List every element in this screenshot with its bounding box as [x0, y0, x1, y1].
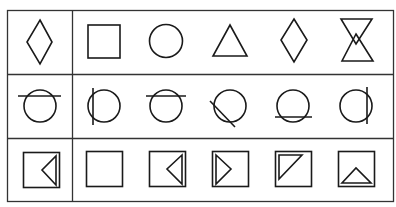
reference-diamond-icon [27, 20, 52, 64]
reference-square-left-triangle-icon [24, 153, 60, 188]
square-left-triangle-icon [150, 152, 186, 187]
grid [8, 11, 394, 202]
row-3 [24, 152, 375, 188]
circle-icon [150, 25, 183, 58]
puzzle-figure [0, 0, 396, 207]
outer-border [8, 11, 394, 202]
circle-bottom-line-icon [275, 90, 312, 122]
square-bottom-triangle-icon [339, 152, 375, 187]
reference-circle-top-line-icon [18, 90, 61, 122]
triangle-icon [213, 25, 247, 56]
circle-right-vertical-line-icon [340, 87, 372, 124]
row-1 [27, 19, 373, 64]
square-corner-triangle-icon [276, 152, 312, 187]
row-2 [18, 87, 372, 127]
circle-top-line-icon [146, 90, 186, 122]
empty-square-icon [87, 152, 123, 187]
diamond-icon [281, 19, 307, 62]
square-right-triangle-icon [213, 152, 249, 187]
circle-left-vertical-line-icon [88, 88, 120, 125]
square-icon [88, 25, 120, 58]
hourglass-icon [341, 19, 373, 61]
circle-diagonal-line-icon [210, 90, 246, 127]
